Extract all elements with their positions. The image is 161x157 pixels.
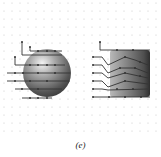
figure-caption: (e) bbox=[0, 140, 161, 150]
figure-panel bbox=[0, 0, 161, 157]
